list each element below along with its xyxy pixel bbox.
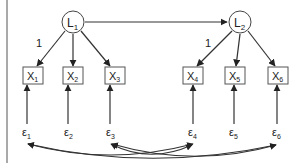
error-label-e4: ε4 [188,126,197,140]
error-label-e5: ε5 [229,126,238,140]
error-label-e1: ε1 [22,126,31,140]
loading-arrow-l2-x6 [248,31,275,66]
latent-node-l1: L1 [62,11,84,33]
indicator-box-x3: X3 [105,67,125,84]
error-label-e6: ε6 [272,126,281,140]
loading-arrow-l1-x3 [81,31,110,66]
loading-arrow-l2-x5 [236,34,240,66]
error-label-e2: ε2 [64,126,73,140]
loading-arrow-l2-x4 [197,31,232,66]
indicator-box-x1: X1 [23,67,43,84]
indicator-box-x4: X4 [183,67,203,84]
covariance-e1-e6 [28,144,276,158]
indicator-box-x6: X6 [268,67,288,84]
latent-node-l2: L2 [229,11,251,33]
indicator-box-x2: X2 [63,67,83,84]
loading-label-x4: 1 [205,37,211,49]
error-label-e3: ε3 [106,126,115,140]
path-diagram: L1 L2 1 1 X1 X2 X3 X4 X5 X6 ε1 ε2 ε3 ε4 … [0,0,308,163]
indicator-box-x5: X5 [225,67,245,84]
loading-label-x1: 1 [36,37,42,49]
